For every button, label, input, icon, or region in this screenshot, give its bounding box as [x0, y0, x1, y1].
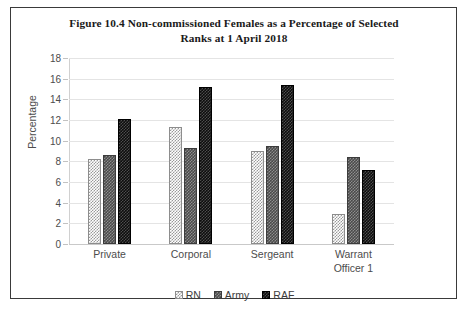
bar-raf-warrant-officer-1[interactable] — [362, 170, 375, 244]
y-axis-tick — [63, 79, 68, 80]
gridline — [69, 244, 394, 245]
y-axis-tick — [63, 244, 68, 245]
y-axis-tick — [63, 120, 68, 121]
x-axis-label-line-2: Officer 1 — [308, 262, 398, 276]
bar-raf-private[interactable] — [118, 119, 131, 244]
bar-group — [232, 58, 313, 244]
x-axis-label-line-1: Corporal — [146, 248, 236, 262]
legend-swatch-icon — [175, 291, 183, 299]
bar-army-warrant-officer-1[interactable] — [347, 157, 360, 244]
y-axis-tick — [63, 182, 68, 183]
chart-title: Figure 10.4 Non-commissioned Females as … — [49, 16, 419, 45]
x-axis-label-line-1: Warrant — [308, 248, 398, 262]
y-axis-tick-label: 16 — [31, 73, 61, 84]
y-axis-tick — [63, 161, 68, 162]
chart-container: Figure 10.4 Non-commissioned Females as … — [10, 7, 457, 299]
x-axis-tick-labels: PrivateCorporalSergeantWarrantOfficer 1 — [69, 248, 394, 288]
y-axis-tick-label: 2 — [31, 218, 61, 229]
legend-swatch-icon — [214, 291, 222, 299]
y-axis-tick-label: 8 — [31, 156, 61, 167]
legend-label: RN — [186, 289, 201, 301]
y-axis-tick — [63, 99, 68, 100]
bar-raf-sergeant[interactable] — [281, 85, 294, 244]
y-axis-tick-label: 18 — [31, 53, 61, 64]
chart-legend: RNArmyRAF — [11, 289, 458, 301]
x-axis-label-line-1: Private — [65, 248, 155, 262]
x-axis-label-line-1: Sergeant — [227, 248, 317, 262]
y-axis-tick — [63, 223, 68, 224]
y-axis-tick — [63, 141, 68, 142]
x-axis-tick-label: Private — [65, 248, 155, 262]
x-axis-tick-label: Corporal — [146, 248, 236, 262]
bar-rn-warrant-officer-1[interactable] — [332, 214, 345, 244]
legend-item-raf[interactable]: RAF — [262, 289, 294, 301]
bar-group — [69, 58, 150, 244]
legend-item-army[interactable]: Army — [214, 289, 250, 301]
legend-item-rn[interactable]: RN — [175, 289, 201, 301]
bar-rn-sergeant[interactable] — [251, 151, 264, 244]
x-axis-tick-label: WarrantOfficer 1 — [308, 248, 398, 275]
y-axis-tick-label: 0 — [31, 239, 61, 250]
bar-army-private[interactable] — [103, 155, 116, 244]
bar-army-corporal[interactable] — [184, 148, 197, 244]
bar-army-sergeant[interactable] — [266, 146, 279, 244]
y-axis-tick-label: 12 — [31, 115, 61, 126]
plot-area — [69, 58, 394, 244]
bar-rn-corporal[interactable] — [169, 127, 182, 244]
y-axis-tick-label: 6 — [31, 177, 61, 188]
bar-rn-private[interactable] — [88, 159, 101, 244]
legend-label: Army — [225, 289, 250, 301]
y-axis-tick-label: 14 — [31, 94, 61, 105]
legend-swatch-icon — [262, 291, 270, 299]
chart-title-line-2: Ranks at 1 April 2018 — [49, 31, 419, 46]
y-axis-tick-labels: 024681012141618 — [25, 58, 61, 244]
y-axis-tick-label: 4 — [31, 197, 61, 208]
x-axis-tick-label: Sergeant — [227, 248, 317, 262]
y-axis-tick-label: 10 — [31, 135, 61, 146]
chart-title-line-1: Figure 10.4 Non-commissioned Females as … — [49, 16, 419, 31]
bar-group — [150, 58, 231, 244]
bar-group — [313, 58, 394, 244]
bar-raf-corporal[interactable] — [199, 87, 212, 244]
legend-label: RAF — [273, 289, 294, 301]
y-axis-tick — [63, 203, 68, 204]
y-axis-tick — [63, 58, 68, 59]
